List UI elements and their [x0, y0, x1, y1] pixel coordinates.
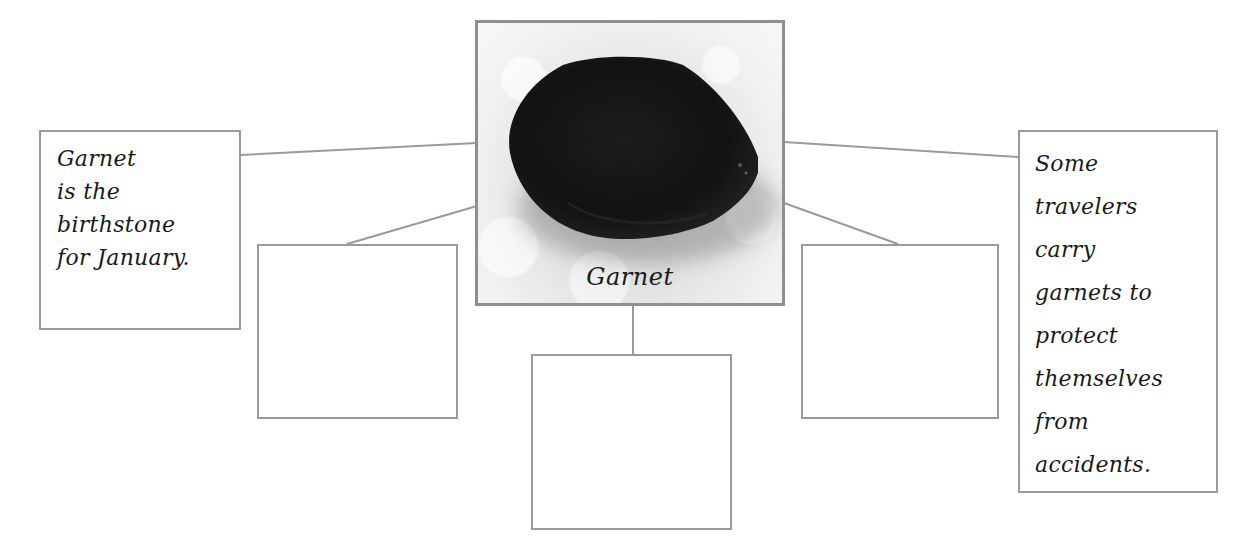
- fact-line: travelers: [1035, 185, 1216, 228]
- fact-line: accidents.: [1035, 443, 1216, 486]
- connector-lower-right: [784, 203, 898, 244]
- left-fact-box: Garnet is the birthstone for January.: [39, 130, 241, 330]
- center-photo-box: Garnet: [475, 20, 785, 306]
- blank-box-lower-left[interactable]: [257, 244, 458, 419]
- right-fact-box: Some travelers carry garnets to protect …: [1018, 130, 1218, 493]
- connector-left-fact: [240, 143, 477, 155]
- fact-line: for January.: [57, 241, 239, 274]
- blank-box-lower-right[interactable]: [801, 244, 999, 419]
- blank-box-bottom-center[interactable]: [531, 354, 732, 530]
- connector-lower-left: [347, 206, 477, 244]
- fact-line: birthstone: [57, 208, 239, 241]
- fact-line: Some: [1035, 142, 1216, 185]
- fact-line: carry: [1035, 228, 1216, 271]
- fact-line: themselves: [1035, 357, 1216, 400]
- fact-line: Garnet: [57, 142, 239, 175]
- fact-line: protect: [1035, 314, 1216, 357]
- fact-line: from: [1035, 400, 1216, 443]
- fact-line: garnets to: [1035, 271, 1216, 314]
- garnet-stone-image: [508, 53, 758, 243]
- connector-right-fact: [784, 142, 1018, 157]
- fact-line: is the: [57, 175, 239, 208]
- photo-caption: Garnet: [478, 263, 782, 291]
